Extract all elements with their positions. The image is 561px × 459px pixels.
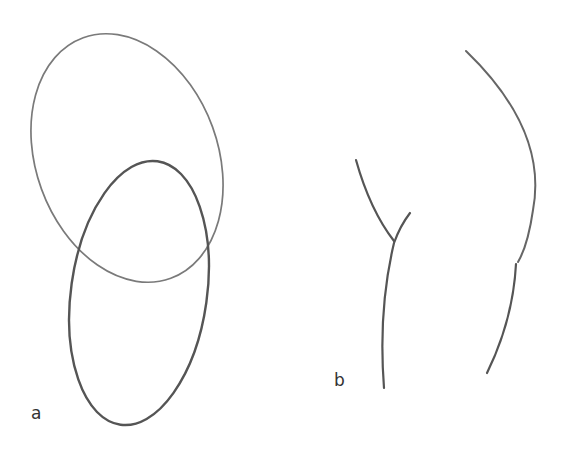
right-lower-arc [487, 264, 516, 373]
left-branch-strand [382, 213, 410, 388]
lower-loop [53, 152, 225, 434]
right-upper-arc [466, 51, 535, 262]
left-upper-strand [356, 160, 394, 241]
knot-diagram-figure [0, 0, 561, 459]
panel-b-broken-strands [356, 51, 535, 388]
panel-label-b: b [334, 372, 345, 389]
panel-label-a: a [31, 405, 41, 422]
panel-a-linked-loops [0, 7, 256, 435]
upper-loop [0, 7, 256, 310]
